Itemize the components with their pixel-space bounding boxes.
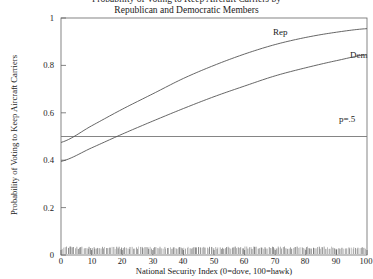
curve-rep (61, 29, 367, 143)
plot-canvas (0, 0, 373, 279)
rug-plot (62, 247, 365, 254)
curve-dem (61, 55, 367, 162)
chart-figure: Probability of Voting to Keep Aircraft C… (0, 0, 373, 279)
data-curves (61, 29, 367, 162)
